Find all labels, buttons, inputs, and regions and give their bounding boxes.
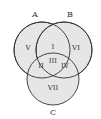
region-label-v: V	[24, 44, 31, 52]
region-label-vi: VI	[71, 44, 80, 52]
set-label-b: B	[67, 10, 73, 19]
set-label-a: A	[31, 10, 38, 19]
region-label-ii: II	[38, 62, 44, 70]
region-label-vii: VII	[47, 84, 59, 92]
region-label-iv: IV	[61, 62, 70, 70]
region-label-iii: III	[49, 57, 58, 65]
region-label-i: I	[52, 43, 55, 51]
set-label-c: C	[50, 108, 56, 117]
venn-diagram: A B C I II III IV V VI VII	[0, 0, 101, 119]
